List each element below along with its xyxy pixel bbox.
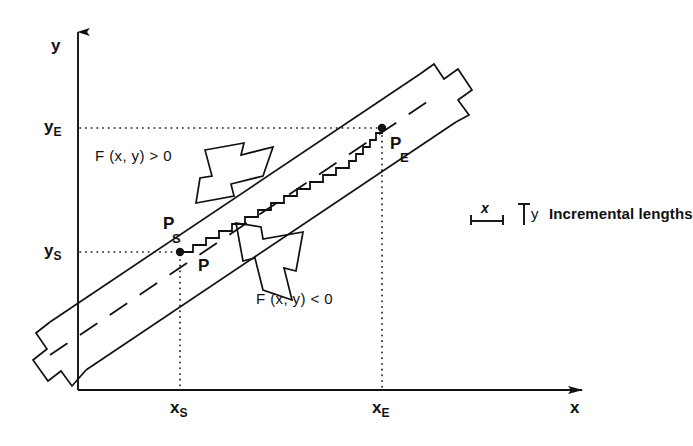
y-tick-upper-label: yE bbox=[44, 117, 61, 137]
arrow-negative-region bbox=[236, 223, 303, 300]
staircase-path bbox=[180, 128, 382, 252]
x-tick-right-label: xE bbox=[372, 398, 389, 418]
y-tick-lower-sub: S bbox=[53, 249, 61, 263]
ideal-line bbox=[50, 100, 430, 355]
legend-glyphs bbox=[471, 204, 530, 225]
legend-x-symbol: x bbox=[481, 200, 489, 216]
negative-region-label: F (x, y) < 0 bbox=[256, 290, 333, 307]
current-point-label: P bbox=[198, 256, 209, 276]
end-point-marker bbox=[378, 124, 386, 132]
x-tick-right-sub: E bbox=[381, 406, 389, 420]
y-tick-lower-label: yS bbox=[44, 241, 61, 261]
legend-caption: Incremental lengths bbox=[549, 205, 693, 222]
x-tick-left-label: xS bbox=[170, 398, 187, 418]
band-right-cap bbox=[420, 64, 472, 122]
axis-group bbox=[78, 32, 582, 390]
x-axis-label: x bbox=[570, 398, 579, 418]
legend-y-symbol: y bbox=[531, 205, 539, 222]
y-axis-label: y bbox=[51, 36, 60, 56]
start-point-sub-label: S bbox=[172, 231, 181, 246]
y-tick-upper-sub: E bbox=[53, 125, 61, 139]
start-point-marker bbox=[176, 248, 184, 256]
end-point-sub-label: E bbox=[400, 150, 409, 165]
band-upper-edge bbox=[50, 74, 420, 322]
positive-region-label: F (x, y) > 0 bbox=[95, 147, 172, 164]
x-tick-left-sub: S bbox=[179, 406, 187, 420]
arrow-positive-region bbox=[196, 143, 273, 203]
